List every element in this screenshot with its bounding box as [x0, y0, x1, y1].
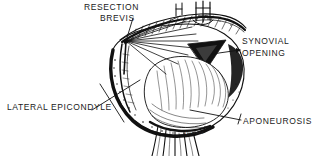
artist-signature: Howard	[185, 130, 204, 135]
label-brevis: BREVIS	[100, 13, 135, 24]
label-synovial: SYNOVIAL	[242, 36, 289, 47]
label-resection: RESECTION	[84, 2, 139, 13]
anatomical-illustration	[0, 0, 312, 156]
label-opening: OPENING	[242, 48, 285, 59]
label-lateral-epicondyle: LATERAL EPICONDYLE	[7, 102, 112, 113]
label-aponeurosis: APONEUROSIS	[243, 116, 312, 127]
